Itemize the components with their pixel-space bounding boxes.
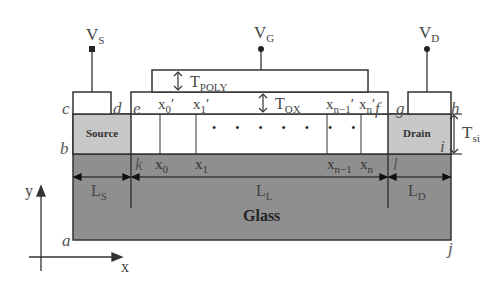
bottom-point-x1: x1 (195, 157, 208, 175)
gate-terminal-label: VG (254, 24, 274, 44)
top-point-xn-1: xn−1′ (326, 97, 354, 115)
point-b: b (60, 140, 69, 157)
y-axis-label: y (25, 183, 33, 199)
source-terminal-dot (89, 46, 95, 52)
t-ox-label: TOX (275, 96, 301, 115)
l-d-label: LD (408, 183, 426, 202)
source-region-label: Source (86, 128, 118, 139)
channel-ellipsis: • • • • • • • (212, 122, 363, 134)
bottom-point-xn: xn (360, 157, 373, 175)
point-a: a (62, 232, 71, 249)
t-si-arrow (450, 114, 462, 154)
source-terminal-label: VS (86, 26, 104, 46)
top-point-x1: x1′ (193, 97, 209, 115)
point-e: e (133, 100, 141, 117)
x-axis-label: x (121, 259, 129, 275)
t-si-label: Tsi (462, 124, 480, 144)
point-h: h (451, 100, 460, 117)
point-j: j (448, 240, 453, 257)
glass-region-label: Glass (243, 208, 280, 224)
drain-contact (408, 92, 451, 114)
point-g: g (396, 100, 405, 117)
top-point-x0: x0′ (158, 97, 174, 115)
point-k: k (135, 156, 143, 173)
top-point-xn: xn′ (359, 97, 375, 115)
drain-region-label: Drain (403, 128, 431, 139)
l-s-label: LS (91, 183, 107, 202)
point-i: i (440, 138, 445, 155)
drain-terminal-dot (424, 46, 430, 52)
point-f: f (375, 100, 380, 117)
poly-gate (152, 70, 368, 92)
gate-terminal-dot (258, 46, 264, 52)
t-poly-label: TPOLY (190, 74, 227, 93)
point-d: d (113, 100, 122, 117)
bottom-point-xn-1: xn−1 (327, 157, 352, 175)
point-c: c (62, 100, 70, 117)
l-l-label: LL (256, 183, 273, 202)
point-l: l (393, 156, 398, 173)
bottom-point-x0: x0 (155, 157, 168, 175)
drain-terminal-label: VD (419, 24, 439, 44)
source-contact (73, 92, 111, 114)
